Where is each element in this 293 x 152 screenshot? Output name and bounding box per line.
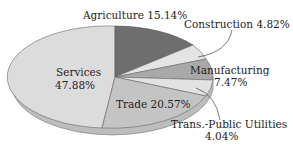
label-manufacturing-value: 7.47% (214, 76, 247, 88)
leader-construction (198, 30, 232, 57)
label-services: Services (56, 66, 101, 78)
label-manufacturing: Manufacturing (190, 64, 269, 76)
label-trade: Trade 20.57% (116, 98, 191, 110)
label-agriculture: Agriculture 15.14% (83, 9, 187, 21)
label-trans: Trans.-Public Utilities (171, 118, 287, 130)
label-services-value: 47.88% (55, 79, 95, 91)
label-construction: Construction 4.82% (184, 18, 290, 30)
label-trans-value: 4.04% (205, 130, 238, 142)
